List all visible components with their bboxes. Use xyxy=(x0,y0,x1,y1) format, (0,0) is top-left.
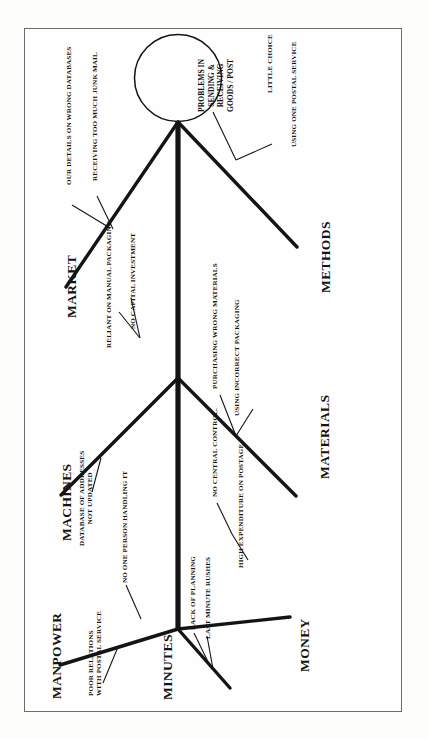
cause-label-reliant-manual-packaging: RELIANT ON MANUAL PACKAGING xyxy=(106,221,114,348)
cause-label-receiving-junk-mail: RECEIVING TOO MUCH JUNK MAIL xyxy=(92,52,100,181)
cause-label-our-details-wrong-databases: OUR DETAILS ON WRONG DATABASES xyxy=(66,47,74,185)
cause-label-purchasing-wrong-materials: PURCHASING WRONG MATERIALS xyxy=(212,263,220,389)
cause-label-high-expenditure-postage: HIGH EXPENDITURE ON POSTAGE xyxy=(238,444,246,568)
cause-label-poor-relations-postal-service: POOR RELATIONS WITH POSTAL SERVICE xyxy=(88,611,104,696)
page-canvas: PROBLEMS IN SENDING & RECEIVING GOODS / … xyxy=(0,0,429,739)
bone-market xyxy=(66,122,178,287)
effect-label-line-3: RECEIVING xyxy=(216,59,226,112)
bone-methods xyxy=(178,122,297,247)
cause-label-no-capital-investment: NO CAPITAL INVESTMENT xyxy=(130,233,138,329)
cause-label-little-choice: LITTLE CHOICE xyxy=(267,34,275,93)
cause-label-database-line-2: NOT UPDATED xyxy=(87,451,95,546)
cause-label-no-one-person-handling-it: NO ONE PERSON HANDLING IT xyxy=(122,471,130,583)
effect-label-line-2: SENDING & xyxy=(207,59,217,112)
effect-label: PROBLEMS IN SENDING & RECEIVING GOODS / … xyxy=(197,59,236,112)
effect-label-line-4: GOODS / POST xyxy=(226,59,236,112)
twig-methods-little-choice xyxy=(213,112,236,160)
twig-money-no-central-control xyxy=(217,503,232,534)
cause-label-no-central-control: NO CENTRAL CONTROL. xyxy=(212,408,220,497)
category-label-market: MARKET xyxy=(64,255,79,318)
category-label-machines: MACHINES xyxy=(59,464,74,541)
cause-label-using-one-postal-service: USING ONE POSTAL SERVICE xyxy=(291,41,299,147)
category-label-money: MONEY xyxy=(297,618,312,672)
cause-label-using-incorrect-packaging: USING INCORRECT PACKAGING xyxy=(234,299,242,416)
category-label-methods: METHODS xyxy=(318,221,333,293)
category-label-manpower: MANPOWER xyxy=(49,613,64,699)
cause-label-database-addresses-not-updated: DATABASE OF ADDRESSES NOT UPDATED xyxy=(79,451,95,546)
cause-label-lack-of-planning: LACK OF PLANNING xyxy=(190,556,198,630)
twig-methods-one-postal xyxy=(236,144,272,160)
category-label-minutes: MINUTES xyxy=(160,634,175,700)
cause-label-poor-relations-line-2: WITH POSTAL SERVICE xyxy=(96,611,104,696)
cause-label-last-minute-rushes: LAST MINUTE RUSHES xyxy=(205,557,213,639)
category-label-materials: MATERIALS xyxy=(317,395,332,479)
effect-label-line-1: PROBLEMS IN xyxy=(197,59,207,112)
twig-manpower-no-one-person xyxy=(126,585,141,619)
